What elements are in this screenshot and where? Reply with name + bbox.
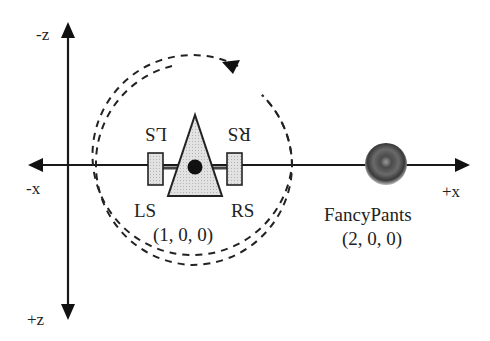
source-name: FancyPants [324, 204, 412, 225]
pos-x-label: +x [442, 182, 461, 201]
sound-source [365, 143, 407, 185]
listener-center-dot [188, 160, 203, 175]
neg-z-arrow-icon [61, 22, 75, 38]
source-sphere-icon [365, 143, 407, 185]
left-speaker-label: LS [134, 200, 156, 221]
neg-x-arrow-icon [28, 158, 43, 172]
rotation-arrow-icon [222, 60, 240, 74]
left-speaker-flipped-label: LS [145, 124, 167, 145]
listener-position: (1, 0, 0) [153, 224, 213, 246]
z-axis [61, 22, 75, 320]
right-speaker-label: RS [231, 200, 254, 221]
right-speaker-flipped-label: RS [228, 124, 251, 145]
pos-z-label: +z [27, 310, 45, 329]
listener-triangle [168, 115, 222, 196]
left-speaker [148, 153, 163, 185]
source-position: (2, 0, 0) [342, 228, 402, 250]
pos-x-arrow-icon [455, 158, 470, 172]
pos-z-arrow-icon [61, 304, 75, 320]
coordinate-diagram: -z +z -x +x LS RS LS RS (1, 0, 0) FancyP… [0, 0, 490, 341]
neg-x-label: -x [26, 179, 41, 198]
neg-z-label: -z [36, 25, 50, 44]
right-speaker [227, 153, 242, 185]
